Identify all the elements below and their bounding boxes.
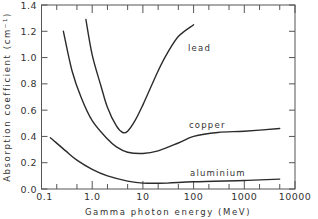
y-tick-label: 0.0 (20, 184, 37, 195)
x-tick-label: 10000 (279, 191, 312, 202)
y-tick-labels: 0.00.20.40.60.81.01.21.4 (20, 0, 37, 195)
y-tick-label: 0.4 (20, 131, 37, 142)
label-aluminium: aluminium (190, 168, 246, 178)
curve-lead (86, 20, 194, 133)
x-tick-label: 100 (184, 191, 204, 202)
curve-copper (63, 31, 279, 153)
y-tick-label: 1.4 (20, 0, 37, 11)
absorption-chart: 0.11.010100100010000 0.00.20.40.60.81.01… (0, 0, 318, 219)
y-axis-title: Absorption coefficient (cm⁻¹) (2, 12, 12, 182)
y-tick-label: 0.6 (20, 105, 37, 116)
y-tick-label: 1.0 (20, 52, 37, 63)
x-axis-title: Gamma photon energy (MeV) (85, 207, 251, 217)
y-tick-label: 0.2 (20, 157, 37, 168)
x-tick-label: 0.1 (36, 191, 53, 202)
curves (50, 20, 279, 184)
x-tick-label: 1000 (231, 191, 257, 202)
x-tick-label: 10 (136, 191, 149, 202)
x-tick-label: 1.0 (84, 191, 101, 202)
y-tick-label: 1.2 (20, 26, 37, 37)
label-lead: lead (188, 43, 211, 53)
label-copper: copper (189, 120, 226, 130)
x-tick-labels: 0.11.010100100010000 (36, 191, 311, 202)
y-tick-label: 0.8 (20, 78, 37, 89)
